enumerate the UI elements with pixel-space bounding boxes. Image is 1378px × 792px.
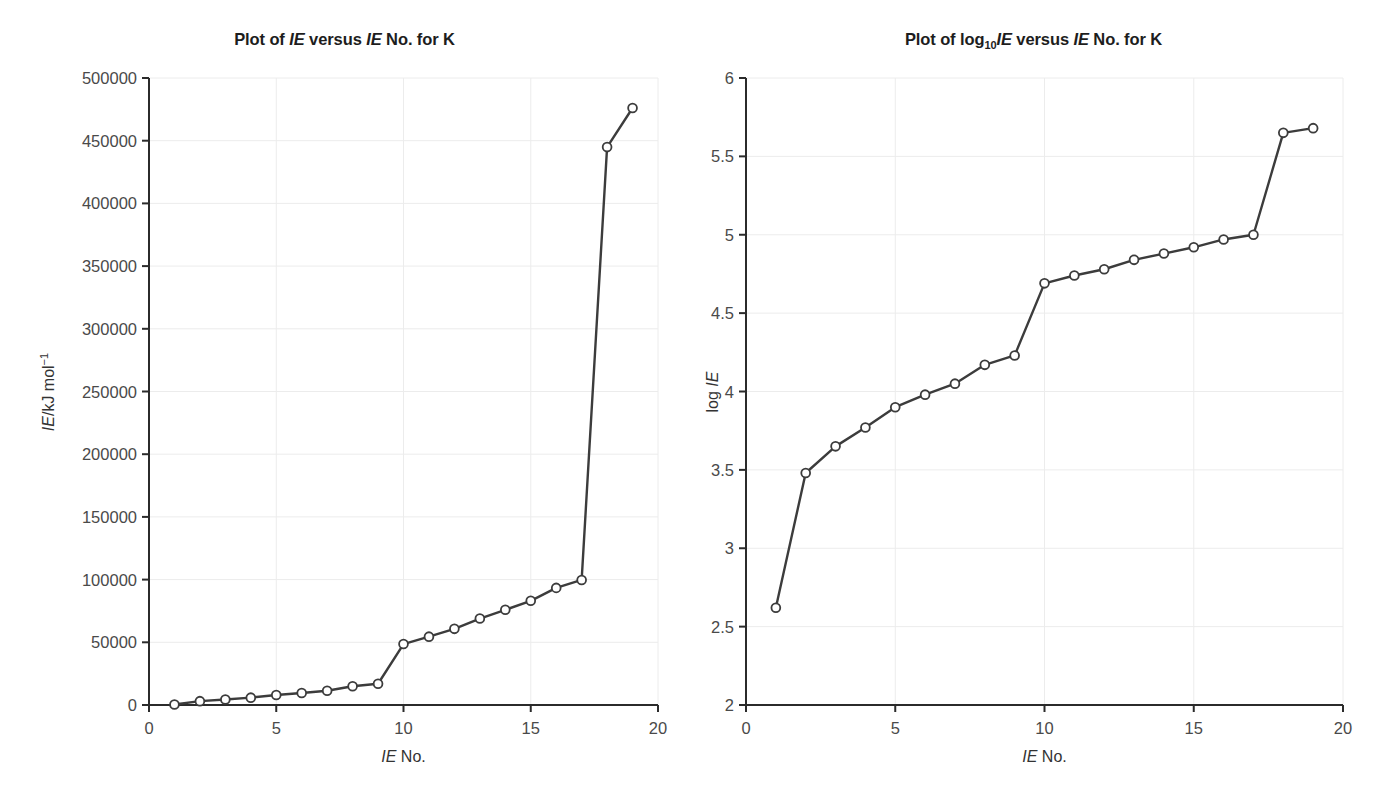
- x-axis-label-ie-linear: IE No.: [149, 748, 658, 766]
- y-tick-label: 200000: [82, 445, 137, 464]
- panel-ie-log: Plot of log10IE versus IE No. for K log …: [689, 0, 1378, 792]
- data-point-marker: [246, 693, 255, 702]
- data-point-marker: [831, 442, 840, 451]
- y-tick-label: 300000: [82, 319, 137, 338]
- y-tick-label: 5: [725, 225, 734, 244]
- data-point-marker: [951, 379, 960, 388]
- x-tick-label: 5: [272, 719, 281, 738]
- y-tick-label: 100000: [82, 570, 137, 589]
- y-tick-label: 2: [725, 696, 734, 715]
- data-point-marker: [603, 143, 612, 152]
- y-tick-label: 150000: [82, 507, 137, 526]
- x-tick-label: 0: [741, 719, 750, 738]
- y-axis-label-ie-log: log IE: [704, 372, 722, 413]
- y-tick-label: 3: [725, 539, 734, 558]
- data-point-marker: [475, 614, 484, 623]
- y-tick-label: 400000: [82, 194, 137, 213]
- y-tick-label: 50000: [91, 633, 137, 652]
- data-point-marker: [1249, 230, 1258, 239]
- y-tick-label: 250000: [82, 382, 137, 401]
- y-tick-label: 500000: [82, 69, 137, 88]
- data-point-marker: [348, 682, 357, 691]
- data-point-marker: [1070, 271, 1079, 280]
- x-tick-label: 15: [522, 719, 540, 738]
- data-point-marker: [1309, 124, 1318, 133]
- data-point-marker: [1189, 243, 1198, 252]
- panel-ie-linear: Plot of IE versus IE No. for K IE/kJ mol…: [0, 0, 689, 792]
- data-point-marker: [861, 423, 870, 432]
- y-axis-label-ie-linear: IE/kJ mol−1: [38, 353, 58, 431]
- data-point-marker: [771, 603, 780, 612]
- plot-area-ie-log: [689, 0, 1378, 792]
- y-tick-label: 350000: [82, 257, 137, 276]
- data-point-marker: [1130, 255, 1139, 264]
- y-tick-label: 4: [725, 382, 734, 401]
- data-point-marker: [552, 583, 561, 592]
- data-point-marker: [980, 360, 989, 369]
- x-tick-label: 20: [649, 719, 667, 738]
- y-tick-label: 4.5: [711, 304, 734, 323]
- data-point-marker: [1279, 128, 1288, 137]
- y-tick-label: 0: [128, 696, 137, 715]
- data-point-marker: [1100, 265, 1109, 274]
- data-point-marker: [272, 691, 281, 700]
- x-tick-label: 10: [394, 719, 412, 738]
- data-point-marker: [1219, 235, 1228, 244]
- y-tick-label: 3.5: [711, 460, 734, 479]
- data-point-marker: [450, 624, 459, 633]
- data-point-marker: [501, 605, 510, 614]
- x-tick-label: 20: [1334, 719, 1352, 738]
- data-point-marker: [1040, 279, 1049, 288]
- x-tick-label: 15: [1185, 719, 1203, 738]
- y-tick-label: 5.5: [711, 147, 734, 166]
- figure-two-panel-ionization-energy-plots: Plot of IE versus IE No. for K IE/kJ mol…: [0, 0, 1378, 792]
- x-tick-label: 0: [144, 719, 153, 738]
- data-point-marker: [577, 576, 586, 585]
- x-axis-label-ie-log: IE No.: [746, 748, 1343, 766]
- data-point-marker: [801, 469, 810, 478]
- data-point-marker: [1010, 351, 1019, 360]
- data-point-marker: [323, 686, 332, 695]
- data-point-marker: [891, 403, 900, 412]
- y-tick-label: 450000: [82, 131, 137, 150]
- data-point-marker: [526, 596, 535, 605]
- data-point-marker: [425, 632, 434, 641]
- x-tick-label: 5: [891, 719, 900, 738]
- data-point-marker: [921, 390, 930, 399]
- x-tick-label: 10: [1035, 719, 1053, 738]
- y-tick-label: 6: [725, 69, 734, 88]
- data-point-marker: [628, 104, 637, 113]
- data-point-marker: [374, 679, 383, 688]
- data-point-marker: [170, 700, 179, 709]
- y-tick-label: 2.5: [711, 617, 734, 636]
- data-point-marker: [196, 697, 205, 706]
- data-point-marker: [399, 640, 408, 649]
- data-point-marker: [221, 695, 230, 704]
- data-point-marker: [1160, 249, 1169, 258]
- data-point-marker: [297, 689, 306, 698]
